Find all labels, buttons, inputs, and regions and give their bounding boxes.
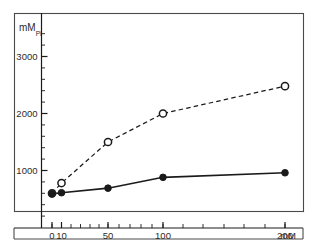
data-point-open	[159, 110, 166, 117]
x-tick-label: 50	[103, 230, 114, 241]
y-tick-label: 2000	[16, 108, 37, 119]
y-ticks: 100020003000	[16, 34, 47, 216]
data-point-filled	[58, 189, 65, 196]
data-point-filled	[49, 191, 56, 198]
x-tick-label: 100	[155, 230, 171, 241]
data-point-open	[104, 138, 111, 145]
y-tick-label: 1000	[16, 165, 37, 176]
data-point-filled	[282, 169, 289, 176]
x-tick-label: 0	[49, 230, 54, 241]
x-ticks: 01050100200	[49, 222, 293, 241]
chart-figure: 10002000300001050100200mMmMPi	[0, 0, 314, 243]
x-axis-unit-label: mM	[280, 230, 296, 241]
y-axis-title: mMPi	[19, 22, 41, 37]
data-point-open	[281, 83, 288, 90]
x-tick-label: 10	[56, 230, 67, 241]
data-point-open	[58, 179, 65, 186]
line-chart: 10002000300001050100200mMmMPi	[0, 0, 314, 243]
data-point-filled	[160, 174, 167, 181]
y-tick-label: 3000	[16, 51, 37, 62]
data-point-filled	[105, 185, 112, 192]
series-line-filled-circle-solid	[52, 173, 285, 194]
